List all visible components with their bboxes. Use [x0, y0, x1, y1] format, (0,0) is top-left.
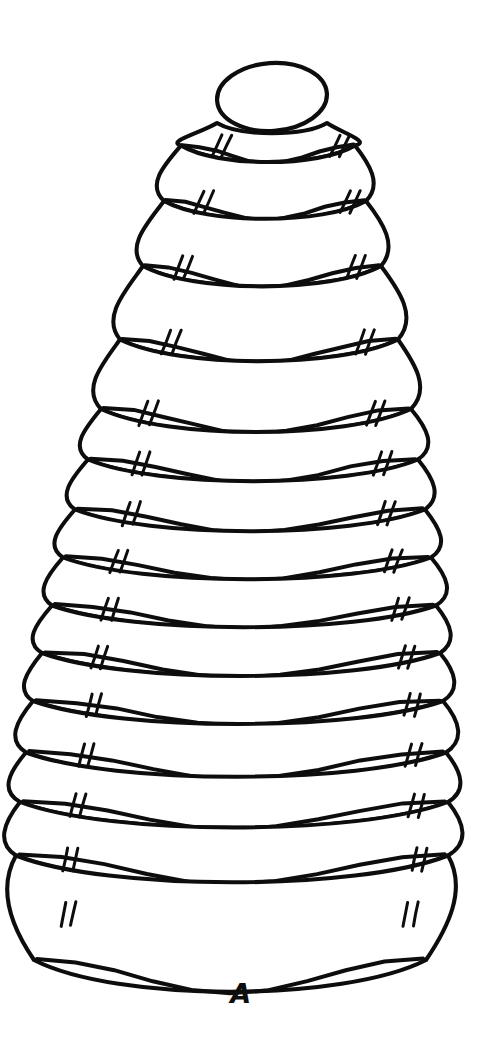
figure-panel: A: [0, 0, 482, 1039]
figure-label: A: [0, 980, 482, 1007]
shell-apex: [215, 59, 329, 135]
shell-whorl-stack: [4, 123, 462, 993]
shell-illustration: [0, 0, 482, 1039]
apex-cap: [215, 59, 329, 135]
